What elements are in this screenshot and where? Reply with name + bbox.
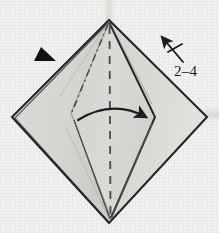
repeat-arrow-icon <box>162 37 183 62</box>
turn-over-triangle-icon <box>34 47 56 61</box>
origami-diagram-page: 2–4 <box>0 0 219 233</box>
repeat-steps-range-label: 2–4 <box>174 63 197 80</box>
origami-figure <box>0 0 219 233</box>
